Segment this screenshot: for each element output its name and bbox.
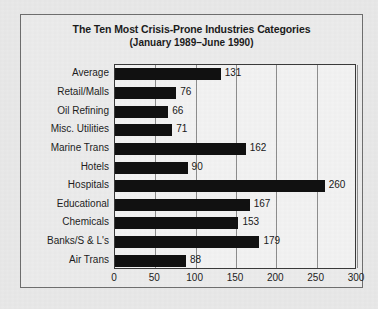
- x-tick-label: 200: [267, 271, 284, 285]
- bar: [115, 236, 259, 248]
- gridline: [357, 65, 358, 268]
- value-axis-labels: 050100150200250300: [114, 271, 356, 287]
- bar-value-label: 71: [176, 123, 187, 135]
- x-tick-label: 50: [149, 271, 160, 285]
- category-label: Hospitals: [68, 179, 109, 191]
- bar-value-label: 153: [242, 216, 259, 228]
- category-label: Hotels: [81, 161, 109, 173]
- bar-row: 153: [115, 217, 357, 229]
- category-label: Average: [72, 67, 109, 79]
- chart-subtitle: (January 1989–June 1990): [21, 36, 362, 50]
- bar-rows-layer: 1317666711629026016715317988: [115, 65, 355, 268]
- plot-area: 1317666711629026016715317988: [114, 64, 356, 269]
- bar-value-label: 179: [263, 235, 280, 247]
- bar-row: 131: [115, 68, 357, 80]
- chart-figure-frame: The Ten Most Crisis-Prone Industries Cat…: [20, 14, 363, 288]
- category-label: Marine Trans: [51, 142, 109, 154]
- category-label: Air Trans: [69, 254, 109, 266]
- bar: [115, 199, 250, 211]
- bar: [115, 180, 325, 192]
- bar-row: 162: [115, 143, 357, 155]
- category-label: Chemicals: [62, 216, 109, 228]
- category-label: Retail/Malls: [57, 86, 109, 98]
- bar: [115, 162, 188, 174]
- category-label: Educational: [57, 198, 109, 210]
- category-axis-labels: AverageRetail/MallsOil RefiningMisc. Uti…: [22, 64, 109, 269]
- bar-value-label: 167: [254, 198, 271, 210]
- bar: [115, 68, 221, 80]
- category-label: Misc. Utilities: [51, 123, 109, 135]
- bar-value-label: 131: [225, 67, 242, 79]
- bar: [115, 124, 172, 136]
- bar-value-label: 90: [192, 161, 203, 173]
- bar-row: 71: [115, 124, 357, 136]
- category-label: Oil Refining: [57, 105, 109, 117]
- bar: [115, 143, 246, 155]
- bar-row: 260: [115, 180, 357, 192]
- x-tick-label: 0: [111, 271, 117, 285]
- chart-title-block: The Ten Most Crisis-Prone Industries Cat…: [21, 22, 362, 50]
- bar-value-label: 66: [172, 105, 183, 117]
- bar: [115, 217, 238, 229]
- bar-value-label: 260: [329, 179, 346, 191]
- bar-row: 66: [115, 106, 357, 118]
- bar: [115, 87, 176, 99]
- category-label: Banks/S & L's: [47, 235, 109, 247]
- plot-wrap: 1317666711629026016715317988 AverageReta…: [114, 64, 356, 269]
- bar-row: 179: [115, 236, 357, 248]
- bar-row: 88: [115, 255, 357, 267]
- bar: [115, 106, 168, 118]
- x-tick-label: 250: [307, 271, 324, 285]
- x-tick-label: 300: [348, 271, 365, 285]
- chart-title: The Ten Most Crisis-Prone Industries Cat…: [21, 22, 362, 36]
- bar-value-label: 76: [180, 86, 191, 98]
- bar: [115, 255, 186, 267]
- x-tick-label: 100: [186, 271, 203, 285]
- bar-row: 167: [115, 199, 357, 211]
- bar-row: 76: [115, 87, 357, 99]
- bar-value-label: 88: [190, 254, 201, 266]
- bar-row: 90: [115, 162, 357, 174]
- bar-value-label: 162: [250, 142, 267, 154]
- x-tick-label: 150: [227, 271, 244, 285]
